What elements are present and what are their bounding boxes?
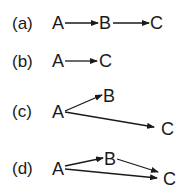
arrow-a-to-c [65, 169, 157, 178]
panel-c: (c) A B C [12, 86, 174, 139]
arrow-a-to-b [65, 95, 102, 111]
arrow-b-to-c [117, 159, 158, 172]
panel-label: (b) [12, 52, 33, 71]
panel-label: (c) [12, 102, 32, 121]
panel-label: (d) [12, 159, 33, 178]
panel-d: (d) A B C [12, 149, 176, 189]
panel-label: (a) [12, 14, 33, 33]
arrow-a-to-b [65, 158, 103, 166]
node-a: A [52, 159, 64, 179]
node-c: C [163, 169, 176, 189]
panel-a: (a) A B C [12, 13, 163, 33]
node-c: C [150, 13, 163, 33]
arrow-a-to-c [65, 112, 154, 127]
node-c: C [99, 51, 112, 71]
panel-b: (b) A C [12, 51, 112, 71]
node-a: A [52, 13, 64, 33]
node-b: B [104, 149, 116, 169]
causal-diagrams: (a) A B C (b) A C (c) A B C (d) A B C [0, 0, 184, 194]
node-a: A [52, 102, 64, 122]
node-a: A [52, 51, 64, 71]
node-b: B [103, 86, 115, 106]
node-c: C [161, 119, 174, 139]
node-b: B [99, 13, 111, 33]
